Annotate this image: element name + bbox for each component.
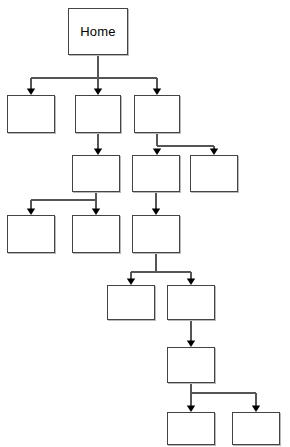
node-box[interactable] bbox=[167, 347, 215, 383]
node-box[interactable] bbox=[132, 155, 180, 192]
sitemap-diagram: Home bbox=[0, 0, 290, 447]
node-box[interactable] bbox=[7, 215, 55, 253]
node-label: Home bbox=[80, 25, 115, 38]
connector-line bbox=[31, 55, 157, 89]
node-box[interactable] bbox=[167, 285, 215, 320]
connector-line bbox=[157, 133, 214, 149]
node-box[interactable] bbox=[190, 155, 238, 192]
connector-line bbox=[31, 192, 96, 209]
node-box[interactable] bbox=[7, 95, 55, 133]
node-box[interactable] bbox=[167, 412, 215, 445]
node-box[interactable] bbox=[107, 285, 155, 320]
node-box[interactable] bbox=[72, 155, 120, 192]
connector-line bbox=[131, 253, 191, 279]
node-box-home[interactable]: Home bbox=[68, 8, 128, 55]
node-box[interactable] bbox=[134, 95, 180, 133]
node-box[interactable] bbox=[72, 215, 120, 253]
node-box[interactable] bbox=[132, 215, 180, 253]
node-box[interactable] bbox=[75, 95, 121, 133]
connector-line bbox=[191, 383, 256, 406]
node-box[interactable] bbox=[232, 412, 280, 445]
